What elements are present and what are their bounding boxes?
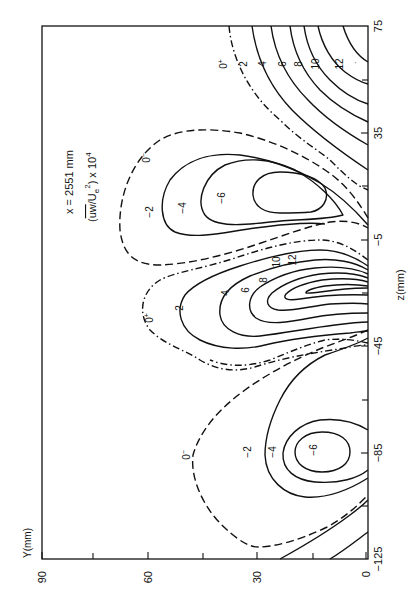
y-tick-labels: 90 60 30 0 xyxy=(36,571,372,583)
contour-upper-4 xyxy=(271,26,368,145)
station-label: x = 2551 mm xyxy=(63,150,75,214)
contour-mid-12 xyxy=(306,285,368,294)
contour-corner-2 xyxy=(280,500,368,559)
svg-text:0+: 0+ xyxy=(217,59,229,69)
svg-text:0+: 0+ xyxy=(143,313,155,323)
svg-text:10: 10 xyxy=(271,256,282,268)
svg-text:60: 60 xyxy=(142,571,154,583)
svg-text:12: 12 xyxy=(287,254,298,266)
contour-upper-12 xyxy=(343,26,368,62)
svg-text:75: 75 xyxy=(372,20,384,32)
svg-text:6: 6 xyxy=(277,61,288,67)
svg-text:−5: −5 xyxy=(372,234,384,247)
svg-text:−4: −4 xyxy=(177,202,188,214)
svg-text:−4: −4 xyxy=(267,446,278,458)
svg-text:30: 30 xyxy=(251,571,263,583)
svg-text:(uw/Ue2) x 104: (uw/Ue2) x 104 xyxy=(83,152,101,222)
quantity-label: (uw/Ue2) x 104 xyxy=(83,152,101,222)
svg-text:6: 6 xyxy=(240,287,251,293)
contour-lower-0plus xyxy=(210,339,368,365)
svg-text:−6: −6 xyxy=(216,192,227,204)
contour-lower-m2 xyxy=(265,338,368,497)
svg-text:−2: −2 xyxy=(144,206,155,218)
contour-mid-4 xyxy=(220,259,368,336)
z-axis-title: z(mm) xyxy=(394,269,406,300)
svg-text:2: 2 xyxy=(174,305,185,311)
svg-text:4: 4 xyxy=(220,290,231,296)
svg-text:35: 35 xyxy=(372,127,384,139)
contour-upper-0plus xyxy=(229,26,368,190)
svg-text:': ' xyxy=(355,61,356,67)
contour-lower-m6 xyxy=(295,432,350,472)
svg-text:0−: 0− xyxy=(180,450,192,460)
svg-text:−125: −125 xyxy=(372,547,384,572)
contour-mid-10 xyxy=(285,279,368,300)
contour-upper-6 xyxy=(290,26,368,122)
contour-upper-m6 xyxy=(253,172,327,213)
y-axis-title: Y(mm) xyxy=(22,528,33,558)
svg-text:10: 10 xyxy=(310,58,321,70)
svg-text:90: 90 xyxy=(36,571,48,583)
z-tick-labels: 75 35 −5 −45 −85 −125 xyxy=(372,20,384,572)
svg-text:−45: −45 xyxy=(372,337,384,356)
svg-text:−2: −2 xyxy=(242,446,253,458)
svg-text:8: 8 xyxy=(258,277,269,283)
contour-upper-m4 xyxy=(201,160,343,225)
contour-chart: 75 35 −5 −45 −85 −125 90 60 30 0 z(mm) Y… xyxy=(0,0,413,607)
svg-text:2: 2 xyxy=(238,61,249,67)
svg-text:8: 8 xyxy=(293,61,304,67)
y-axis-ticks xyxy=(42,552,366,559)
svg-text:4: 4 xyxy=(257,61,268,67)
svg-text:0−: 0− xyxy=(140,153,152,163)
contour-lower-0minus xyxy=(193,330,368,547)
svg-text:−6: −6 xyxy=(308,444,319,456)
contour-corner-4 xyxy=(330,532,368,559)
svg-text:−85: −85 xyxy=(372,444,384,463)
svg-text:0: 0 xyxy=(360,571,372,577)
svg-text:12: 12 xyxy=(334,58,345,70)
